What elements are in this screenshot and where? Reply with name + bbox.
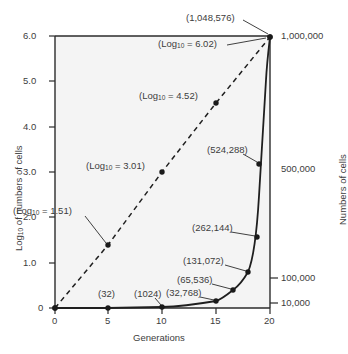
figure-container: 6.0 5.0 4.0 3.0 2.0 1.0 0 0 5 10 15 20 1… xyxy=(0,0,348,354)
annotation-log-602: (Log10 = 6.02) xyxy=(158,39,217,50)
y-axis-left-title: Log10 of numbers of cells xyxy=(14,145,25,251)
x-tick-label-5: 5 xyxy=(105,316,110,326)
annotation-log-301-pre: (Log xyxy=(86,160,105,171)
annotation-log-151: (Log10 = 1.51) xyxy=(13,206,72,217)
y-right-tick-label-500k: 500,000 xyxy=(281,164,315,174)
x-tick-label-0: 0 xyxy=(52,316,57,326)
y-axis-right-title: Numbers of cells xyxy=(338,154,348,225)
y-tick-label-6: 6.0 xyxy=(23,31,36,41)
y-axis-left-title-sub: 10 xyxy=(17,228,24,235)
y-tick-label-3: 3.0 xyxy=(23,167,36,177)
annotation-262144: (262,144) xyxy=(192,223,233,233)
annotation-log-151-post: = 1.51) xyxy=(39,205,71,216)
annotation-log-452: (Log10 = 4.52) xyxy=(139,91,198,102)
annotation-log-151-pre: (Log xyxy=(13,205,32,216)
annotation-32: (32) xyxy=(98,289,115,299)
x-axis-title: Generations xyxy=(133,333,185,343)
annotation-log-602-post: = 6.02) xyxy=(184,38,216,49)
x-tick-label-15: 15 xyxy=(210,316,221,326)
annotation-1024: (1024) xyxy=(134,289,161,299)
y-tick-label-1: 1.0 xyxy=(23,258,36,268)
annotation-log-452-pre: (Log xyxy=(139,90,158,101)
y-axis-left-title-pre: Log xyxy=(13,235,24,251)
x-tick-label-20: 20 xyxy=(264,316,275,326)
y-tick-label-4: 4.0 xyxy=(23,122,36,132)
annotation-log-602-pre: (Log xyxy=(158,38,177,49)
x-tick-label-10: 10 xyxy=(156,316,167,326)
y-tick-label-0: 0 xyxy=(38,303,43,313)
leader-1048576 xyxy=(243,20,268,34)
annotation-log-301-post: = 3.01) xyxy=(112,160,144,171)
annotation-log-301: (Log10 = 3.01) xyxy=(86,161,145,172)
annotation-131072: (131,072) xyxy=(183,256,224,266)
annotation-524288: (524,288) xyxy=(207,145,248,155)
y-right-tick-label-100k: 100,000 xyxy=(281,273,315,283)
y-axis-left-ticks xyxy=(49,36,55,308)
annotation-1048576: (1,048,576) xyxy=(186,13,235,23)
annotation-65536: (65,536) xyxy=(177,275,212,285)
y-axis-right-ticks xyxy=(270,278,278,303)
y-tick-label-5: 5.0 xyxy=(23,76,36,86)
annotation-32768: (32,768) xyxy=(166,288,201,298)
annotation-log-452-post: = 4.52) xyxy=(165,90,197,101)
y-right-tick-label-1m: 1,000,000 xyxy=(281,31,323,41)
y-right-tick-label-10k: 10,000 xyxy=(281,298,310,308)
